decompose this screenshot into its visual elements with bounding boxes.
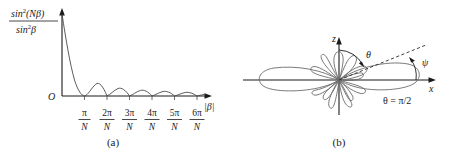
psi-angle-label: ψ bbox=[422, 57, 429, 68]
tick-1-numerator: π bbox=[82, 108, 87, 118]
tick-6-numerator: 6π bbox=[192, 108, 202, 118]
origin-label: O bbox=[48, 91, 55, 102]
y-axis-label-numerator: sin2(Nβ) bbox=[11, 7, 45, 20]
tick-3-numerator: 3π bbox=[125, 108, 135, 118]
major-lobe-negative-x bbox=[259, 67, 339, 91]
x-axis-arrowhead bbox=[429, 77, 437, 83]
x-axis-ticks bbox=[85, 96, 198, 100]
panel-b-caption: (b) bbox=[333, 136, 346, 149]
tick-5-numerator: 5π bbox=[170, 108, 180, 118]
panel-a-caption: (a) bbox=[107, 136, 120, 149]
tick-2-denominator: N bbox=[103, 122, 111, 132]
y-axis-label-fraction: sin2(Nβ) sin2β bbox=[9, 7, 58, 35]
z-axis-arrowhead bbox=[336, 37, 342, 45]
x-tick-label-1: π N bbox=[79, 108, 91, 132]
x-tick-label-3: 3π N bbox=[122, 108, 137, 132]
panel-b-radiation-pattern: z x bbox=[226, 0, 452, 151]
panel-a-array-factor-plot: sin2(Nβ) sin2β O bbox=[0, 0, 226, 151]
array-factor-curve bbox=[62, 14, 206, 96]
x-tick-label-6: 6π N bbox=[190, 108, 205, 132]
x-tick-label-2: 2π N bbox=[100, 108, 115, 132]
tick-3-denominator: N bbox=[125, 122, 133, 132]
tick-2-numerator: 2π bbox=[102, 108, 112, 118]
tick-4-denominator: N bbox=[148, 122, 156, 132]
major-lobe-positive-x bbox=[339, 63, 419, 90]
psi-arc-arrowhead bbox=[409, 57, 415, 63]
panel-b-svg: z x bbox=[226, 0, 452, 151]
x-tick-label-5: 5π N bbox=[167, 108, 182, 132]
theta-angle-label: θ bbox=[366, 49, 371, 60]
theta-plane-label: θ = π/2 bbox=[383, 95, 411, 106]
z-axis-label: z bbox=[331, 33, 336, 44]
panel-a-svg: sin2(Nβ) sin2β O bbox=[0, 0, 226, 151]
tick-1-denominator: N bbox=[80, 122, 88, 132]
y-axis-label-denominator: sin2β bbox=[16, 23, 36, 35]
tick-6-denominator: N bbox=[193, 122, 201, 132]
x-axis-label: x bbox=[428, 83, 434, 94]
tick-4-numerator: 4π bbox=[147, 108, 157, 118]
x-tick-label-4: 4π N bbox=[145, 108, 160, 132]
tick-5-denominator: N bbox=[170, 122, 178, 132]
figure-root: sin2(Nβ) sin2β O bbox=[0, 0, 452, 151]
y-axis bbox=[59, 8, 65, 96]
x-axis-label: |β| bbox=[204, 101, 214, 112]
